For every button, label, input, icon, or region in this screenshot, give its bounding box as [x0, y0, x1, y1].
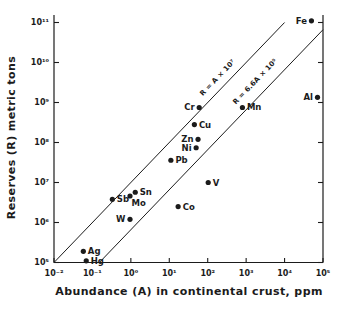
point-Ni — [194, 145, 199, 150]
point-V — [206, 180, 211, 185]
y-axis-title: Reserves (R) metric tons — [5, 8, 18, 268]
x-tick-label: 10⁰ — [124, 269, 139, 278]
point-label-Ni: Ni — [182, 143, 192, 153]
point-Ag — [81, 249, 86, 254]
point-label-V: V — [213, 178, 220, 188]
reference-line — [99, 30, 323, 263]
x-tick-label: 10² — [200, 269, 215, 278]
x-tick-label: 10³ — [239, 269, 254, 278]
point-W — [127, 217, 132, 222]
point-Co — [176, 204, 181, 209]
point-Fe — [309, 18, 314, 23]
reference-line — [54, 23, 285, 263]
point-Al — [315, 95, 320, 100]
x-tick-label: 10⁻¹ — [83, 269, 102, 278]
point-label-Pb: Pb — [175, 155, 187, 165]
point-label-Co: Co — [183, 202, 195, 212]
reference-line-label: R = 6.6A × 10⁵ — [231, 57, 279, 106]
point-Cr — [197, 105, 202, 110]
point-label-Hg: Hg — [91, 256, 104, 266]
point-label-Mn: Mn — [247, 102, 262, 112]
point-label-Mo: Mo — [132, 198, 146, 208]
x-axis-title: Abundance (A) in continental crust, ppm — [30, 285, 348, 298]
point-label-Al: Al — [304, 92, 314, 102]
y-tick-label: 10⁷ — [34, 178, 49, 187]
point-Pb — [168, 158, 173, 163]
point-Zn — [195, 137, 200, 142]
point-label-Sb: Sb — [117, 194, 129, 204]
plot-area: 10⁻²10⁻¹10⁰10¹10²10³10⁴10⁵10⁵10⁶10⁷10⁸10… — [0, 0, 348, 314]
y-tick-label: 10⁸ — [34, 138, 49, 147]
point-label-Sn: Sn — [140, 187, 152, 197]
y-tick-label: 10¹¹ — [31, 18, 50, 27]
point-Hg — [84, 258, 89, 263]
y-tick-label: 10¹⁰ — [31, 58, 50, 67]
x-tick-label: 10⁻² — [45, 269, 64, 278]
point-Cu — [192, 122, 197, 127]
y-tick-label: 10⁵ — [34, 258, 49, 267]
reserves-vs-abundance-chart: 10⁻²10⁻¹10⁰10¹10²10³10⁴10⁵10⁵10⁶10⁷10⁸10… — [0, 0, 348, 314]
y-tick-label: 10⁶ — [34, 218, 49, 227]
point-label-Cr: Cr — [184, 102, 195, 112]
point-label-Fe: Fe — [296, 16, 307, 26]
y-tick-label: 10⁹ — [34, 98, 49, 107]
x-tick-label: 10¹ — [162, 269, 177, 278]
point-Sn — [133, 190, 138, 195]
point-label-W: W — [116, 214, 126, 224]
point-Mn — [240, 105, 245, 110]
x-tick-label: 10⁵ — [316, 269, 331, 278]
x-tick-label: 10⁴ — [277, 269, 292, 278]
point-Sb — [110, 197, 115, 202]
point-label-Cu: Cu — [199, 120, 211, 130]
point-label-Ag: Ag — [88, 246, 101, 256]
